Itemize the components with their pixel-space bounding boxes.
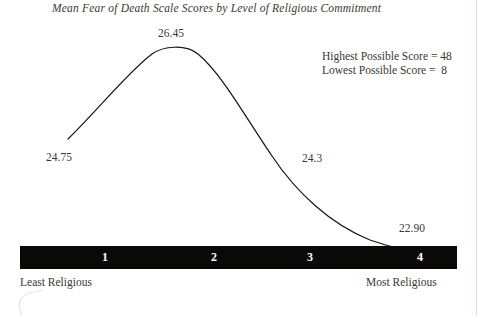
scale-tick-4: 4 — [411, 250, 429, 265]
curve-path — [68, 47, 436, 253]
figure-page: Mean Fear of Death Scale Scores by Level… — [0, 0, 477, 316]
scale-tick-2: 2 — [205, 250, 223, 265]
scale-tick-3: 3 — [301, 250, 319, 265]
scale-anchor-least-religious: Least Religious — [20, 276, 92, 288]
scale-tick-1: 1 — [96, 250, 114, 265]
scale-anchor-most-religious: Most Religious — [366, 276, 437, 288]
religious-commitment-scale-bar: 1 2 3 4 — [20, 246, 457, 269]
